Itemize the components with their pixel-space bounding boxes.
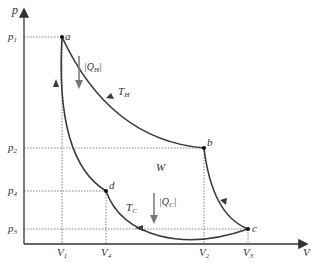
svg-text:p3: p3	[7, 222, 18, 236]
heat-out-arrow-icon	[150, 215, 158, 224]
hot-isotherm-label: TH	[118, 85, 130, 99]
pv-diagram: a b c d p V p1 p2 p4 p3 V1 V4 V2 V3 TH T…	[0, 0, 314, 263]
volume-tick-labels: V1 V4 V2 V3	[57, 246, 254, 260]
point-d-label: d	[109, 179, 115, 191]
svg-text:V2: V2	[199, 246, 210, 260]
point-a-label: a	[65, 30, 71, 42]
svg-text:p2: p2	[7, 141, 18, 155]
heat-in-arrow-icon	[75, 80, 83, 89]
point-b-label: b	[207, 136, 213, 148]
svg-text:V4: V4	[101, 246, 112, 260]
svg-text:V1: V1	[57, 246, 67, 260]
svg-text:p1: p1	[7, 30, 17, 44]
svg-text:p4: p4	[7, 184, 18, 198]
arrow-ab-icon	[106, 93, 114, 99]
point-c-label: c	[252, 222, 257, 234]
adiabat-bc	[204, 148, 248, 229]
direction-arrows	[53, 79, 227, 231]
svg-text:V3: V3	[243, 246, 254, 260]
work-label: W	[156, 161, 166, 173]
heat-in-label: |QH|	[84, 61, 102, 74]
p-axis-label: p	[11, 3, 18, 17]
cold-isotherm-label: TC	[126, 201, 137, 215]
v-axis-label: V	[303, 246, 311, 258]
arrow-da-icon	[53, 79, 59, 87]
heat-out-label: |QC|	[159, 196, 176, 209]
isotherm-hot-ab	[62, 37, 204, 148]
pressure-tick-labels: p1 p2 p4 p3	[7, 30, 18, 236]
